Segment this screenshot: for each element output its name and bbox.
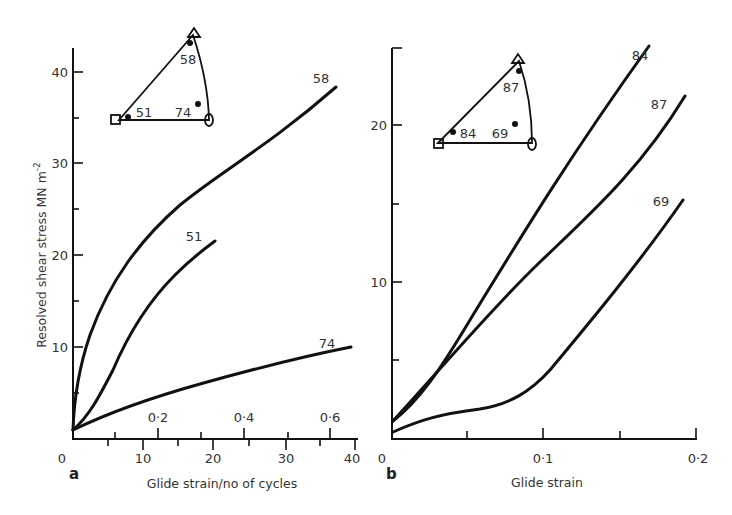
b-curve-label-87: 87 xyxy=(651,97,668,112)
a-x-tick-30: 30 xyxy=(278,451,295,466)
a-inset-label-74: 74 xyxy=(175,105,192,120)
a-x-tick-40: 40 xyxy=(344,451,361,466)
a-x-top-tick-0.6: 0·6 xyxy=(320,410,341,425)
a-inset-stereotriangle: 58 51 74 xyxy=(111,28,213,126)
b-x-ticks xyxy=(467,428,696,439)
panel-b: 20 10 0 0·1 0·2 Glide strain b 84 87 69 xyxy=(370,46,708,490)
a-x-tick-0: 0 xyxy=(58,451,66,466)
b-inset-label-84: 84 xyxy=(460,126,477,141)
a-curve-58 xyxy=(73,87,336,430)
a-x-top-tick-0.2: 0·2 xyxy=(148,410,169,425)
figure: 40 30 20 10 0 10 20 30 40 0·2 0·4 xyxy=(0,0,732,515)
a-x-axis-label: Glide strain/no of cycles xyxy=(147,476,297,491)
a-inset-point-51 xyxy=(125,114,131,120)
panel-label-b: b xyxy=(386,465,397,483)
b-inset-label-87: 87 xyxy=(503,80,520,95)
a-y-tick-10: 10 xyxy=(51,340,68,355)
b-inset-stereotriangle: 87 84 69 xyxy=(434,54,536,150)
b-y-tick-20: 20 xyxy=(370,118,387,133)
b-y-tick-10: 10 xyxy=(370,275,387,290)
a-x-top-tick-0.4: 0·4 xyxy=(234,410,255,425)
b-inset-point-69 xyxy=(512,121,518,127)
b-x-tick-0.2: 0·2 xyxy=(688,451,709,466)
a-curve-label-58: 58 xyxy=(313,71,330,86)
a-x-tick-10: 10 xyxy=(135,451,152,466)
a-inset-label-51: 51 xyxy=(136,105,153,120)
a-y-axis-label: Resolved shear stress MN m-2 xyxy=(32,162,49,348)
b-inset-point-87 xyxy=(516,68,522,74)
a-inset-label-58: 58 xyxy=(180,52,197,67)
a-curve-74 xyxy=(73,347,351,430)
panel-label-a: a xyxy=(69,465,79,483)
b-y-ticks xyxy=(392,125,402,360)
a-curve-label-51: 51 xyxy=(186,229,203,244)
b-curve-label-84: 84 xyxy=(632,48,649,63)
a-inset-point-74 xyxy=(195,101,201,107)
b-x-tick-0: 0 xyxy=(378,451,386,466)
b-curve-69 xyxy=(393,200,683,432)
a-y-tick-30: 30 xyxy=(51,156,68,171)
a-curve-label-74: 74 xyxy=(319,336,336,351)
panel-a: 40 30 20 10 0 10 20 30 40 0·2 0·4 xyxy=(32,28,360,491)
a-inset-point-58 xyxy=(187,40,193,46)
b-inset-label-69: 69 xyxy=(492,126,509,141)
b-x-axis-label: Glide strain xyxy=(511,475,583,490)
b-inset-point-84 xyxy=(450,129,456,135)
b-curve-label-69: 69 xyxy=(653,194,670,209)
a-y-tick-20: 20 xyxy=(51,248,68,263)
b-curve-84 xyxy=(393,46,649,421)
a-x-tick-20: 20 xyxy=(205,451,222,466)
svg-text:Resolved shear stress MN m-2: Resolved shear stress MN m-2 xyxy=(32,162,49,348)
b-x-tick-0.1: 0·1 xyxy=(533,451,554,466)
a-y-ticks xyxy=(73,72,83,393)
a-y-tick-40: 40 xyxy=(51,65,68,80)
